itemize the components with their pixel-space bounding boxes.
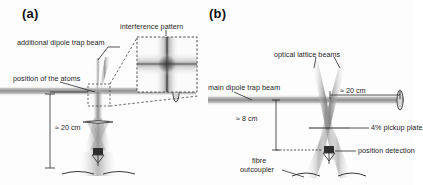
dimension-line-8cm-b bbox=[272, 100, 322, 150]
panel-b-graphics bbox=[204, 0, 414, 185]
main-dipole-trap-beam-label: main dipole trap beam bbox=[208, 84, 280, 92]
interference-pattern-inset-a bbox=[137, 37, 197, 92]
position-detection-label: position detection bbox=[358, 147, 415, 155]
interference-pattern-label: interference pattern bbox=[120, 23, 183, 31]
fibre-outcoupler-label-line2: outcoupler bbox=[240, 166, 274, 174]
panel-a: (a) bbox=[0, 0, 204, 185]
position-detection-detector-b bbox=[323, 146, 335, 164]
dimension-label-20cm-a: ≈ 20 cm bbox=[55, 123, 81, 132]
position-of-the-atoms-label: position of the atoms bbox=[13, 75, 80, 83]
optical-lattice-beams-label: optical lattice beams bbox=[274, 51, 340, 59]
dimension-label-8cm-b: ≈ 8 cm bbox=[236, 114, 258, 123]
dimension-label-20cm-b: ≈ 20 cm bbox=[340, 86, 366, 95]
main-dipole-trap-beam-b bbox=[208, 94, 404, 106]
pickup-plate-label: 4% pickup plate bbox=[371, 124, 423, 132]
additional-dipole-trap-beam-label: additional dipole trap beam bbox=[17, 39, 105, 47]
fibre-outcoupler-optics-b bbox=[292, 173, 366, 176]
lower-beams-b bbox=[304, 130, 352, 178]
panel-b: (b) bbox=[204, 0, 414, 185]
optical-lattice-beams-b bbox=[312, 62, 346, 160]
lens-element-a bbox=[83, 121, 113, 124]
